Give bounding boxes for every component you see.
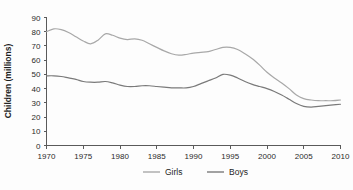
y-tick-label: 10 — [32, 127, 41, 136]
x-tick-label: 1995 — [221, 152, 239, 161]
series-group — [47, 29, 341, 107]
x-tick-label: 1980 — [111, 152, 129, 161]
y-tick-label: 0 — [36, 142, 41, 151]
x-tick-label: 1990 — [185, 152, 203, 161]
series-line-boys — [47, 74, 341, 107]
y-tick-group: 0102030405060708090 — [32, 14, 47, 151]
y-tick-label: 90 — [32, 14, 41, 23]
x-axis: 197019751980198519901995200020052010 — [38, 146, 350, 161]
y-axis-title: Children (millions) — [3, 44, 13, 119]
x-tick-label: 1985 — [148, 152, 166, 161]
x-tick-label: 1970 — [38, 152, 56, 161]
y-axis: 0102030405060708090 Children (millions) — [3, 14, 47, 151]
y-tick-label: 20 — [32, 113, 41, 122]
x-tick-label: 2010 — [332, 152, 350, 161]
chart-figure: 0102030405060708090 Children (millions) … — [0, 0, 353, 190]
x-tick-label: 2005 — [295, 152, 313, 161]
legend-label-boys: Boys — [229, 167, 248, 177]
series-line-girls — [47, 29, 341, 101]
x-tick-label: 2000 — [258, 152, 276, 161]
y-tick-label: 30 — [32, 99, 41, 108]
chart-legend: GirlsBoys — [143, 167, 248, 177]
y-tick-label: 80 — [32, 28, 41, 37]
line-chart: 0102030405060708090 Children (millions) … — [0, 0, 353, 190]
x-tick-label: 1975 — [74, 152, 92, 161]
legend-label-girls: Girls — [165, 167, 182, 177]
y-tick-label: 40 — [32, 85, 41, 94]
x-tick-group: 197019751980198519901995200020052010 — [38, 146, 350, 161]
y-tick-label: 50 — [32, 70, 41, 79]
y-tick-label: 70 — [32, 42, 41, 51]
y-tick-label: 60 — [32, 56, 41, 65]
